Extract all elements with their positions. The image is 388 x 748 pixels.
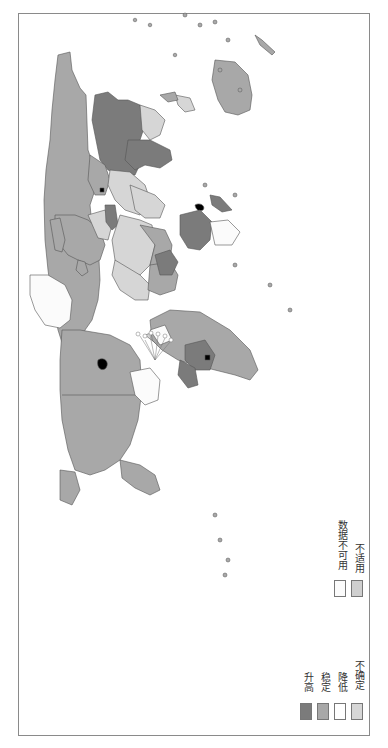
island — [218, 538, 222, 542]
region-islands-se — [160, 92, 178, 102]
island — [226, 38, 230, 42]
island — [198, 23, 202, 27]
legend-swatch-stable — [317, 703, 329, 720]
island — [148, 23, 152, 27]
island — [223, 573, 227, 577]
callout-dot — [143, 334, 147, 338]
highlight-great-lakes — [98, 359, 108, 370]
highlight-mark-africa-2 — [195, 204, 204, 211]
region-alaska — [60, 470, 80, 505]
region-india — [125, 140, 172, 170]
highlight-mark-asia — [100, 188, 104, 192]
region-madagascar — [210, 195, 232, 212]
legend-label-decrease: 降低 — [335, 672, 347, 692]
callout-dot — [163, 334, 167, 338]
island — [233, 193, 237, 197]
island — [203, 183, 207, 187]
island — [226, 558, 230, 562]
legend-label-uncertain: 不确定 — [352, 660, 364, 690]
island — [213, 20, 217, 24]
region-australia — [212, 60, 252, 115]
legend-swatch-decrease — [334, 703, 346, 720]
island — [288, 308, 292, 312]
callout-dot — [156, 332, 160, 336]
legend-swatch-increase — [300, 703, 312, 720]
island — [213, 513, 217, 517]
callout-dot — [149, 331, 153, 335]
island — [133, 18, 137, 22]
region-north-america — [60, 330, 142, 475]
region-se-asia — [140, 105, 165, 140]
island — [268, 283, 272, 287]
legend-label-increase: 升高 — [301, 672, 313, 692]
island — [173, 53, 177, 57]
callout-dot — [169, 338, 173, 342]
world-map — [0, 0, 388, 748]
region-africa-east — [180, 210, 212, 250]
region-africa-horn — [210, 220, 240, 245]
island — [233, 263, 237, 267]
callout-dot — [136, 332, 140, 336]
legend-label-not-applicable: 不适用 — [352, 543, 364, 573]
island — [238, 88, 242, 92]
highlight-south-america — [205, 355, 210, 360]
legend-swatch-uncertain — [351, 703, 363, 720]
legend-swatch-no-data — [334, 580, 346, 597]
legend-label-stable: 稳定 — [318, 672, 330, 692]
region-indonesia — [175, 95, 195, 112]
island — [183, 13, 187, 17]
region-mexico — [120, 460, 160, 495]
legend-label-no-data: 数据不可用 — [335, 520, 347, 570]
region-nz — [255, 35, 275, 55]
legend-swatch-not-applicable — [351, 580, 363, 597]
island — [218, 68, 222, 72]
